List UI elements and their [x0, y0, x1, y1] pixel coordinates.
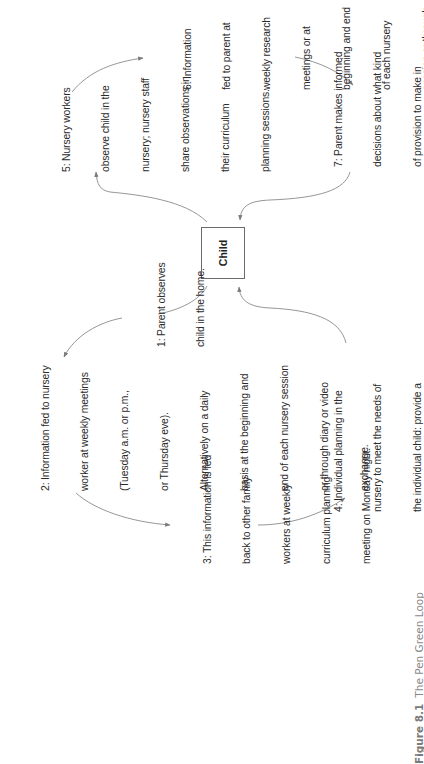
step-1-text: 1: Parent observes child in the home.	[128, 262, 221, 347]
step-2-line: or Thursday eve).	[158, 365, 171, 491]
step-7-line: of provision to make in	[411, 52, 424, 167]
step-7-line: 7: Parent makes informed	[332, 52, 345, 167]
step-3-line: 3: This information is fed	[201, 448, 214, 564]
step-7-line: decisions about what kind	[371, 52, 384, 167]
step-5-line: planning sessions.	[259, 76, 272, 172]
step-6-line: 6: Information	[181, 3, 194, 90]
figure-number: Figure 8.1	[413, 704, 424, 764]
arrow-1-to-2	[64, 318, 122, 357]
step-4-line: 4: Individual planning in the	[332, 383, 345, 512]
step-5-line: their curriculum	[219, 76, 232, 172]
step-4-line: the individual child: provide a	[411, 383, 424, 512]
step-4-text: 4: Individual planning in the nursery to…	[305, 383, 424, 512]
step-3-line: workers at weekly	[280, 448, 293, 564]
arrow-7-to-child	[240, 172, 350, 220]
step-1-line: 1: Parent observes	[155, 262, 168, 347]
step-1-line: child in the home.	[194, 262, 207, 347]
step-5-line: observe child in the	[99, 76, 112, 172]
figure-caption: Figure 8.1The Pen Green Loop	[413, 592, 424, 764]
step-2-line: (Tuesday a.m. or p.m.,	[118, 365, 131, 491]
step-5-line: nursery; nursery staff	[139, 76, 152, 172]
step-6-line: fed to parent at	[220, 3, 233, 90]
figure-title: The Pen Green Loop	[413, 592, 424, 698]
step-5-line: 5: Nursery workers	[60, 76, 73, 172]
step-2-line: worker at weekly meetings	[78, 365, 91, 491]
step-7-text: 7: Parent makes informed decisions about…	[305, 52, 424, 167]
arrow-child-to-5	[96, 172, 207, 222]
step-5-text: 5: Nursery workers observe child in the …	[33, 76, 286, 172]
arrow-2-to-3	[76, 493, 170, 525]
step-3-line: back to other family	[240, 448, 253, 564]
step-6-line: weekly research	[260, 3, 273, 90]
step-4-line: nursery to meet the needs of	[371, 383, 384, 512]
arrow-4-to-child	[239, 287, 346, 343]
step-5-line: share observations in	[179, 76, 192, 172]
step-2-line: 2: Information fed to nursery	[39, 365, 52, 491]
